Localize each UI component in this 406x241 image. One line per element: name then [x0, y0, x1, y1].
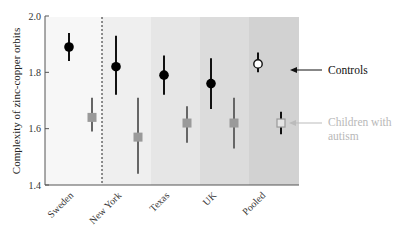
x-label-texas: Texas [147, 190, 171, 214]
x-label-uk: UK [200, 189, 219, 208]
y-tick-label: 2.0 [29, 11, 42, 22]
chart: 1.41.61.82.0 SwedenNew YorkTexasUKPooled… [0, 0, 406, 241]
x-label-sweden: Sweden [45, 190, 75, 220]
band-pooled [249, 17, 299, 185]
legend-label-controls: Controls [328, 64, 368, 76]
x-label-new-york: New York [87, 190, 123, 226]
y-tick-label: 1.4 [29, 180, 42, 191]
x-category-labels: SwedenNew YorkTexasUKPooled [45, 189, 267, 226]
legend-controls: Controls [290, 64, 368, 76]
y-tick-label: 1.8 [29, 67, 42, 78]
legend-autism: Children with autism [289, 116, 392, 142]
x-label-pooled: Pooled [240, 190, 267, 217]
band-sweden [45, 17, 102, 185]
legend-label-autism-line2: autism [328, 130, 359, 142]
y-axis-title: Complexity of zinc-copper orbits [10, 28, 22, 174]
background-bands [45, 17, 299, 185]
y-tick-label: 1.6 [29, 123, 42, 134]
band-texas [151, 17, 200, 185]
band-uk [200, 17, 249, 185]
legend-label-autism-line1: Children with [328, 116, 392, 128]
band-new-york [102, 17, 151, 185]
